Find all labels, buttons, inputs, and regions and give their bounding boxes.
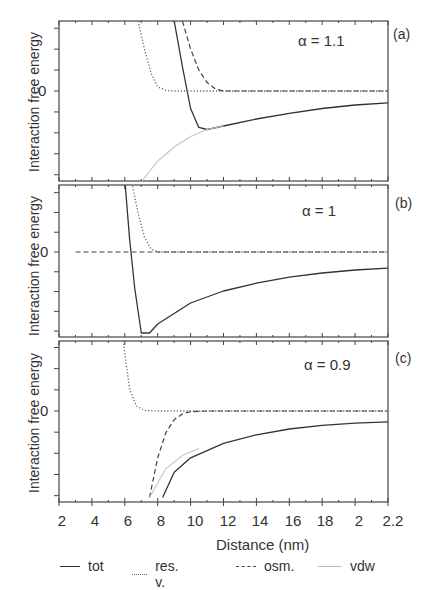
dashed-line-icon: [236, 566, 256, 567]
y-axis-label-a: Interaction free energy: [26, 32, 42, 172]
panel-letter-a: (a): [393, 26, 410, 42]
panel-c: [54, 325, 388, 502]
x-tick-label: 10: [187, 512, 204, 529]
x-tick-label: 8: [157, 512, 165, 529]
legend-item-vdw: vdw: [318, 558, 375, 574]
x-tick-label: 2: [355, 512, 363, 529]
solid-line-icon: [60, 566, 80, 567]
alpha-label-b: α = 1: [302, 202, 336, 219]
zero-tick-label-a: 0: [38, 82, 46, 99]
x-tick-label: 12: [220, 512, 237, 529]
x-tick-label: 18: [317, 512, 334, 529]
panel-letter-b: (b): [395, 195, 412, 211]
curve-tot: [174, 21, 388, 130]
alpha-label-a: α = 1.1: [298, 32, 345, 49]
panel-b: [54, 180, 388, 337]
legend-label: res. v.: [155, 558, 183, 590]
x-tick-label: 2: [58, 512, 66, 529]
curve-tot: [125, 180, 388, 333]
curve-osm: [182, 21, 388, 91]
curve-resv: [131, 180, 388, 252]
x-tick-label: 2.2: [383, 512, 404, 529]
x-tick-label: 4: [91, 512, 99, 529]
legend-item-res-v: res. v.: [132, 558, 183, 590]
dotted-line-icon: [132, 574, 147, 575]
zero-tick-label-b: 0: [40, 243, 48, 260]
x-axis-label: Distance (nm): [216, 536, 309, 553]
y-axis-label-c: Interaction free energy: [26, 353, 42, 493]
plot-frame: [59, 185, 388, 337]
legend-item-tot: tot: [60, 558, 104, 574]
alpha-label-c: α = 0.9: [304, 356, 351, 373]
curve-tot: [163, 422, 388, 498]
light-line-icon: [318, 566, 342, 567]
legend-label: osm.: [264, 558, 294, 574]
x-tick-label: 16: [285, 512, 302, 529]
x-tick-label: 14: [252, 512, 269, 529]
panel-letter-c: (c): [395, 350, 411, 366]
curve-vdw: [141, 126, 223, 182]
y-axis-label-b: Interaction free energy: [26, 196, 42, 336]
zero-tick-label-c: 0: [40, 402, 48, 419]
x-tick-label: 6: [124, 512, 132, 529]
legend-item-osm: osm.: [236, 558, 294, 574]
legend-label: tot: [88, 558, 104, 574]
legend-label: vdw: [350, 558, 375, 574]
